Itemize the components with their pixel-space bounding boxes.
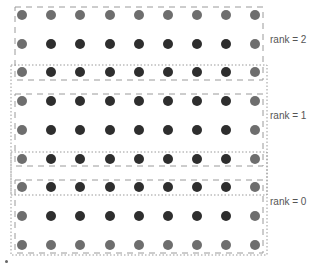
boundary-point <box>221 240 231 250</box>
boundary-point <box>17 211 27 221</box>
interior-point <box>105 182 115 192</box>
boundary-point <box>250 10 260 20</box>
interior-point <box>134 125 144 135</box>
interior-point <box>75 96 85 106</box>
interior-point <box>75 67 85 77</box>
boundary-point <box>17 10 27 20</box>
boundary-point <box>17 39 27 49</box>
boundary-point <box>75 10 85 20</box>
interior-point <box>75 39 85 49</box>
interior-point <box>134 96 144 106</box>
boundary-point <box>221 10 231 20</box>
interior-point <box>163 211 173 221</box>
interior-point <box>46 125 56 135</box>
boundary-point <box>163 240 173 250</box>
interior-point <box>163 125 173 135</box>
interior-point <box>221 39 231 49</box>
interior-point <box>134 154 144 164</box>
rank-0-halo-left-box <box>11 152 267 255</box>
interior-point <box>163 39 173 49</box>
boundary-point <box>134 240 144 250</box>
interior-point <box>105 39 115 49</box>
boundary-point <box>17 67 27 77</box>
interior-point <box>163 154 173 164</box>
interior-point <box>105 125 115 135</box>
interior-point <box>105 154 115 164</box>
interior-point <box>46 96 56 106</box>
interior-point <box>192 154 202 164</box>
boundary-point <box>250 96 260 106</box>
interior-point <box>46 67 56 77</box>
grid-points <box>17 10 260 250</box>
boundary-point <box>250 154 260 164</box>
interior-point <box>221 96 231 106</box>
boundary-point <box>250 240 260 250</box>
boundary-point <box>105 10 115 20</box>
interior-point <box>46 154 56 164</box>
boundary-point <box>105 240 115 250</box>
interior-point <box>134 67 144 77</box>
interior-point <box>75 154 85 164</box>
interior-point <box>163 67 173 77</box>
interior-point <box>221 67 231 77</box>
interior-point <box>105 67 115 77</box>
rank-2-label: rank = 2 <box>270 34 306 45</box>
interior-point <box>221 154 231 164</box>
interior-point <box>75 182 85 192</box>
boundary-point <box>250 67 260 77</box>
boundary-point <box>17 96 27 106</box>
boundary-point <box>17 154 27 164</box>
boundary-point <box>17 240 27 250</box>
interior-point <box>163 96 173 106</box>
interior-point <box>105 96 115 106</box>
boundary-point <box>192 10 202 20</box>
rank-decomposition-diagram <box>0 0 309 268</box>
interior-point <box>75 125 85 135</box>
boundary-point <box>250 39 260 49</box>
boundary-point <box>46 240 56 250</box>
interior-point <box>46 182 56 192</box>
boundary-point <box>250 125 260 135</box>
interior-point <box>46 211 56 221</box>
interior-point <box>192 67 202 77</box>
interior-point <box>221 182 231 192</box>
boundary-point <box>250 211 260 221</box>
boundary-point <box>75 240 85 250</box>
interior-point <box>134 39 144 49</box>
boundary-point <box>46 10 56 20</box>
rank-0-label: rank = 0 <box>270 196 306 207</box>
interior-point <box>192 125 202 135</box>
interior-point <box>221 125 231 135</box>
interior-point <box>75 211 85 221</box>
interior-point <box>163 182 173 192</box>
interior-point <box>105 211 115 221</box>
boundary-point <box>192 240 202 250</box>
interior-point <box>134 182 144 192</box>
interior-point <box>221 211 231 221</box>
boundary-point <box>17 182 27 192</box>
interior-point <box>192 39 202 49</box>
boundary-point <box>250 182 260 192</box>
interior-point <box>192 96 202 106</box>
interior-point <box>46 39 56 49</box>
interior-point <box>192 211 202 221</box>
boundary-point <box>134 10 144 20</box>
rank-1-label: rank = 1 <box>270 110 306 121</box>
interior-point <box>134 211 144 221</box>
origin-marker <box>5 260 8 263</box>
boundary-point <box>17 125 27 135</box>
interior-point <box>192 182 202 192</box>
boundary-point <box>163 10 173 20</box>
